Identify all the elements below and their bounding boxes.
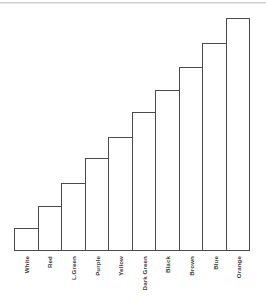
tick-label-white: White (22, 256, 29, 273)
tick-label-cell-white: White (14, 254, 38, 307)
bar-yellow[interactable] (108, 137, 132, 251)
tick-label-red: Red (46, 256, 53, 268)
bar-series (14, 14, 250, 251)
tick-label-brown: Brown (187, 256, 194, 276)
bar-chart-figure: White Red L.Green Purple Yellow Dark Gre… (0, 0, 266, 307)
tick-label-cell-blue: Blue (203, 254, 227, 307)
tick-label-black: Black (164, 256, 171, 273)
bar-orange[interactable] (226, 18, 251, 251)
tick-label-blue: Blue (211, 256, 218, 270)
tick-label-cell-l-green: L.Green (61, 254, 85, 307)
bar-purple[interactable] (85, 158, 109, 251)
bar-black[interactable] (155, 90, 179, 251)
bar-red[interactable] (38, 206, 62, 251)
bar-brown[interactable] (179, 67, 203, 251)
tick-label-cell-purple: Purple (85, 254, 109, 307)
x-axis-tick-labels: White Red L.Green Purple Yellow Dark Gre… (14, 254, 250, 307)
tick-label-orange: Orange (235, 256, 242, 278)
tick-label-purple: Purple (93, 256, 100, 276)
tick-label-cell-black: Black (156, 254, 180, 307)
tick-label-cell-red: Red (38, 254, 62, 307)
bar-white[interactable] (14, 228, 38, 251)
bar-blue[interactable] (202, 43, 226, 251)
tick-label-cell-orange: Orange (226, 254, 250, 307)
tick-label-yellow: Yellow (117, 256, 124, 276)
x-axis-baseline (14, 250, 250, 251)
tick-label-dark-green: Dark Green (140, 256, 147, 290)
tick-label-cell-yellow: Yellow (108, 254, 132, 307)
tick-label-cell-dark-green: Dark Green (132, 254, 156, 307)
bar-l-green[interactable] (61, 183, 85, 251)
bar-dark-green[interactable] (132, 112, 156, 251)
scan-artifact-line-secondary (0, 3, 266, 4)
tick-label-l-green: L.Green (69, 256, 76, 280)
tick-label-cell-brown: Brown (179, 254, 203, 307)
plot-area (14, 14, 250, 251)
